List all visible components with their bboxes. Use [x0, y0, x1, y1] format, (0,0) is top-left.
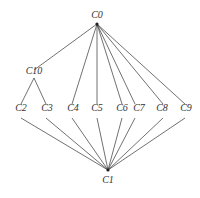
node-label-c6: C6 — [116, 102, 128, 113]
edge-c0-c10 — [34, 24, 97, 70]
edge-c0-c8 — [97, 24, 163, 104]
edge-c0-c6 — [97, 24, 122, 104]
node-label-c2: C2 — [15, 102, 27, 113]
edge-c0-c9 — [97, 24, 185, 104]
edge-c2-c1 — [21, 118, 108, 170]
edge-c0-c7 — [97, 24, 135, 104]
node-label-c10: C10 — [26, 65, 43, 76]
node-label-c1: C1 — [102, 174, 114, 185]
edges — [21, 24, 185, 170]
edge-c10-c2 — [21, 78, 34, 104]
node-label-c8: C8 — [156, 102, 168, 113]
node-labels: C0C10C2C3C4C5C6C7C8C9C1 — [15, 9, 192, 185]
node-label-c7: C7 — [133, 102, 146, 113]
node-label-c0: C0 — [91, 9, 103, 20]
edge-c7-c1 — [108, 118, 135, 170]
node-label-c4: C4 — [67, 102, 79, 113]
node-label-c9: C9 — [180, 102, 192, 113]
vertex-c1 — [106, 168, 109, 171]
node-label-c3: C3 — [41, 102, 53, 113]
edge-c0-c4 — [72, 24, 97, 104]
edge-c10-c3 — [34, 78, 46, 104]
lattice-diagram: C0C10C2C3C4C5C6C7C8C9C1 — [0, 0, 200, 198]
vertices — [95, 22, 109, 171]
vertex-c0 — [95, 22, 98, 25]
node-label-c5: C5 — [91, 102, 103, 113]
edge-c8-c1 — [108, 118, 163, 170]
